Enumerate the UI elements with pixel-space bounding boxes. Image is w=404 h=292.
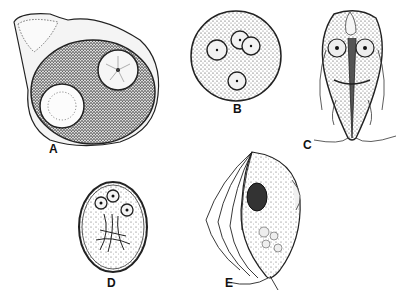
panel-c-illustration [314, 11, 396, 142]
panel-c-label: C [303, 138, 312, 152]
panel-d-label: D [107, 276, 116, 290]
panel-b-illustration [191, 11, 281, 101]
panel-a-illustration [14, 14, 159, 146]
panel-a-label: A [49, 142, 58, 156]
panel-e-label: E [225, 276, 233, 290]
panel-d-illustration [79, 182, 147, 272]
figure-canvas [0, 0, 404, 292]
panel-b-label: B [233, 102, 242, 116]
panel-e-illustration [206, 152, 300, 290]
